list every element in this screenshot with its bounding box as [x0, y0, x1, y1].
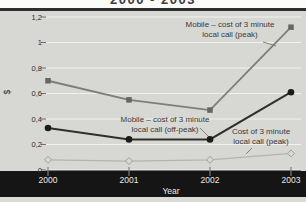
series-annotation-mobile-peak: Mobile – cost of 3 minutelocal call (pea…	[186, 20, 275, 39]
x-tick-label: 2003	[282, 176, 301, 185]
y-tick-label: 0,2	[16, 140, 42, 149]
y-axis-title: $	[2, 85, 14, 99]
annotation-line: local call (off-peak)	[121, 125, 210, 135]
y-tick-label: 0	[16, 166, 42, 175]
annotation-line: Mobile – cost of 3 minute	[121, 115, 210, 125]
annotation-line: local call (peak)	[232, 137, 290, 147]
annotation-line: Cost of 3 minute	[232, 127, 290, 137]
y-tick-label: 0,4	[16, 115, 42, 124]
series-annotation-fixed-peak: Cost of 3 minutelocal call (peak)	[232, 127, 290, 146]
line-chart-figure: 2000 - 2003 00,20,40,60,811,220002001200…	[0, 0, 306, 202]
y-tick-label: 1	[16, 38, 42, 47]
x-tick-label: 2001	[120, 176, 139, 185]
x-tick-label: 2000	[39, 176, 58, 185]
annotation-line: Mobile – cost of 3 minute	[186, 20, 275, 30]
y-tick-label: 0,6	[16, 89, 42, 98]
y-tick-label: 1,2	[16, 13, 42, 22]
x-tick-label: 2002	[201, 176, 220, 185]
y-tick-label: 0,8	[16, 64, 42, 73]
x-axis-title: Year	[162, 187, 179, 196]
series-annotation-mobile-offpeak: Mobile – cost of 3 minutelocal call (off…	[121, 115, 210, 134]
annotation-line: local call (peak)	[186, 30, 275, 40]
chart-labels-layer: 00,20,40,60,811,22000200120022003Year$Mo…	[0, 0, 306, 202]
